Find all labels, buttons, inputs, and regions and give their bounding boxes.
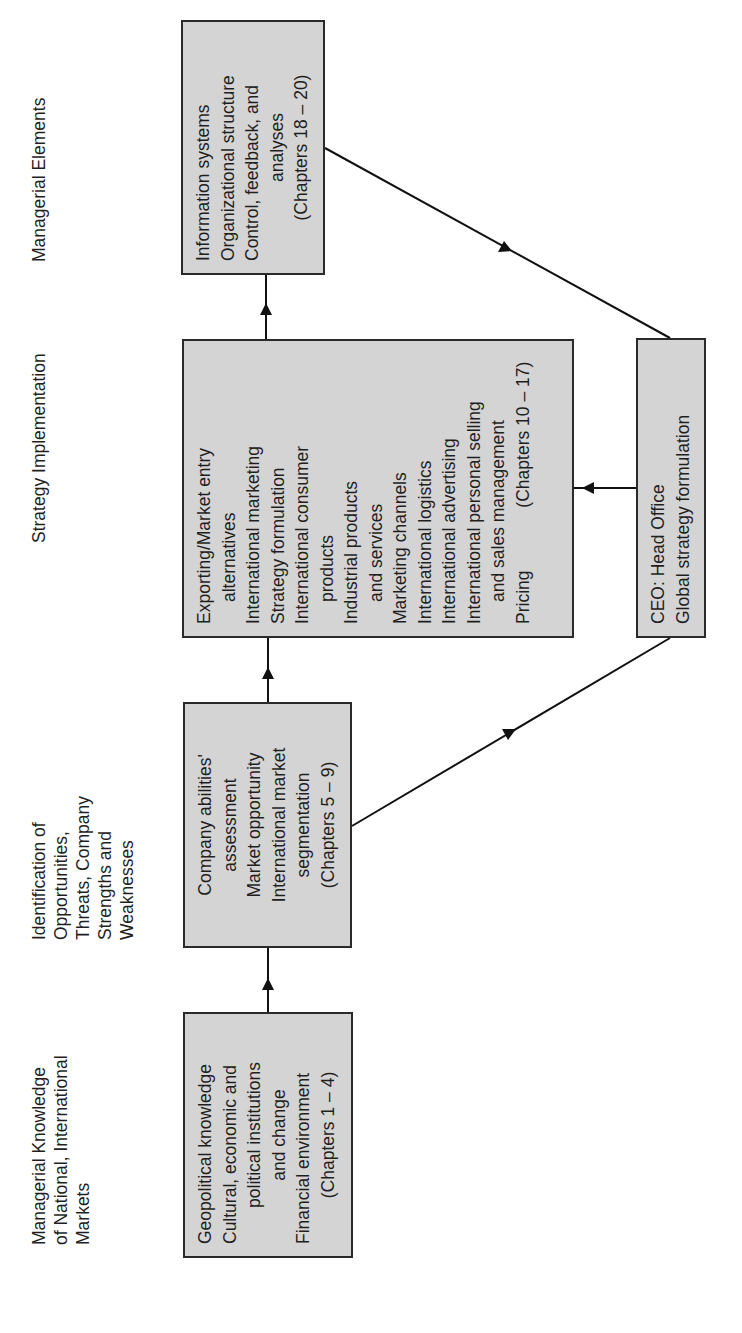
box-line: Global strategy formulation [671,340,696,636]
box-line: Control, feedback, and [240,22,265,273]
box-line: (Chapters 18 – 20) [289,22,314,273]
box-line: Cultural, economic and [218,1014,243,1256]
box-company-abilities: Company abilities' assessment Market opp… [183,702,352,948]
box-line: Market opportunity [242,704,267,946]
box-line: political institutions [242,1014,267,1256]
arrow-information-to-ceo [325,148,670,338]
box-line: Financial environment [291,1014,316,1256]
box-geopolitical-knowledge: Geopolitical knowledge Cultural, economi… [183,1012,353,1258]
diagram-stage: Managerial Knowledge of National, Intern… [0,0,742,1333]
box-line: and services [364,341,389,636]
box-ceo-head-office: CEO: Head Office Global strategy formula… [636,338,706,638]
box-line: Company abilities' [193,704,218,946]
box-line: International advertising [437,341,462,636]
box-line: Geopolitical knowledge [193,1014,218,1256]
box-line: and change [267,1014,292,1256]
arrowhead-icon [502,729,516,740]
box-line: products [315,341,340,636]
box-strategy-implementation: Exporting/Market entry alternatives Inte… [182,339,574,638]
box-line: Industrial products [339,341,364,636]
box-line: segmentation [291,704,316,946]
connector-lines [0,0,742,1333]
box-line: analyses [265,22,290,273]
box-line: Organizational structure [216,22,241,273]
arrowhead-icon [498,241,512,252]
box-line: Strategy formulation [266,341,291,636]
arrowhead-icon [262,667,274,679]
box-line: CEO: Head Office [646,340,671,636]
arrowhead-icon [582,482,594,494]
arrowhead-icon [262,978,274,990]
box-line: International marketing [241,341,266,636]
box-line: assessment [218,704,243,946]
box-line: International personal selling [462,341,487,636]
box-line: and sales management [486,341,511,636]
box-line: (Chapters 1 – 4) [316,1014,341,1256]
box-line: alternatives [217,341,242,636]
box-line: Information systems [191,22,216,273]
arrowhead-icon [260,303,272,315]
box-line: Marketing channels [388,341,413,636]
box-line: Exporting/Market entry [192,341,217,636]
box-line: International logistics [413,341,438,636]
box-line: (Chapters 5 – 9) [316,704,341,946]
box-line: Pricing [511,571,536,637]
box-information-systems: Information systems Organizational struc… [181,20,325,275]
box-line: International market [267,704,292,946]
box-line: International consumer [290,341,315,636]
box-line: (Chapters 10 – 17) [511,362,536,566]
